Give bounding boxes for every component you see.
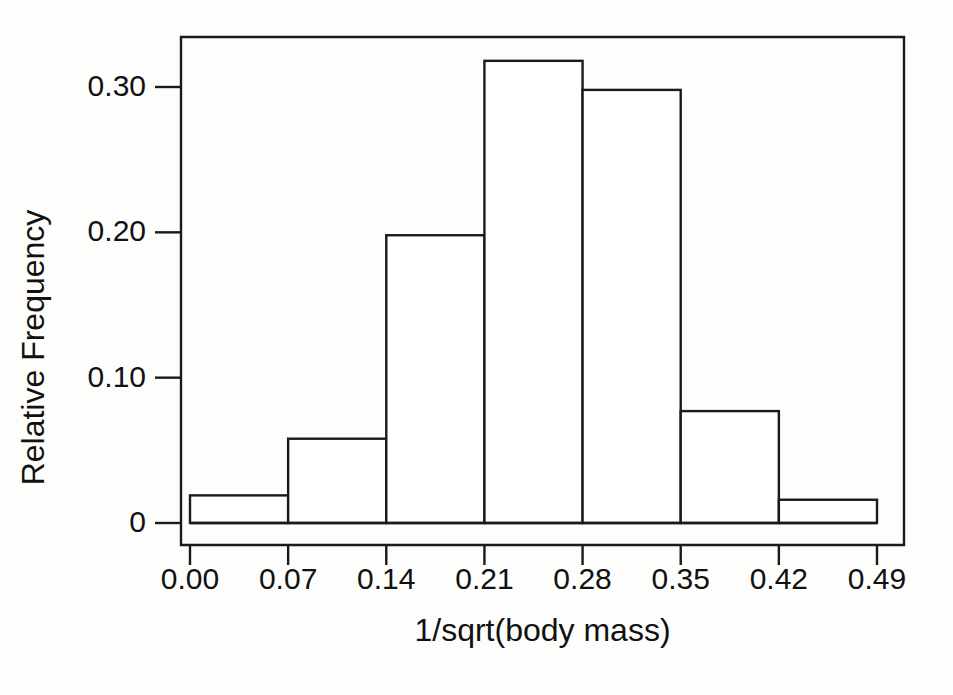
x-tick-label: 0.49 (822, 564, 932, 594)
histogram-bar (484, 61, 582, 523)
histogram-bar (681, 411, 779, 523)
x-tick-label: 0.00 (135, 564, 245, 594)
x-axis-title: 1/sqrt(body mass) (181, 612, 904, 649)
x-tick-label: 0.42 (724, 564, 834, 594)
histogram-bar (779, 500, 877, 523)
x-tick-label: 0.35 (626, 564, 736, 594)
x-tick-label: 0.07 (233, 564, 343, 594)
x-tick-label: 0.21 (429, 564, 539, 594)
histogram-bar (288, 439, 386, 523)
histogram-chart: Relative Frequency 00.100.200.30 0.000.0… (0, 0, 953, 695)
histogram-bars (190, 61, 877, 523)
x-tick-label: 0.28 (528, 564, 638, 594)
histogram-bar (190, 495, 288, 523)
x-tick-label: 0.14 (331, 564, 441, 594)
histogram-bar (583, 90, 681, 523)
histogram-bar (386, 235, 484, 523)
